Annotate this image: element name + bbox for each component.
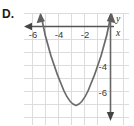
x-tick-label-neg2: -2 bbox=[81, 29, 89, 40]
plot-background bbox=[24, 13, 129, 125]
choice-letter-label: D. bbox=[2, 8, 14, 20]
y-tick-label-neg4: -4 bbox=[99, 61, 107, 72]
y-axis-name-label: y bbox=[115, 14, 121, 24]
graph-plot-area: -6 -4 -2 -4 -6 y x bbox=[24, 13, 129, 125]
x-tick-label-neg4: -4 bbox=[55, 29, 63, 40]
x-axis-name-label: x bbox=[115, 28, 121, 38]
x-tick-label-neg6: -6 bbox=[29, 29, 37, 40]
answer-choice-figure: D. bbox=[0, 0, 134, 126]
y-tick-label-neg6: -6 bbox=[99, 87, 107, 98]
coordinate-plane-svg: -6 -4 -2 -4 -6 y x bbox=[24, 13, 129, 125]
